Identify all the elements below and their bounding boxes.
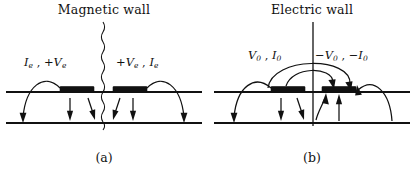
field-arrow-head [67, 111, 73, 121]
field-arrow-icon [286, 70, 333, 86]
field-arrow-icon [358, 85, 392, 121]
field-arrow-head [181, 113, 188, 123]
field-arrow-head [336, 94, 342, 104]
field-arrow-head [89, 109, 95, 120]
field-arrow-icon [147, 81, 184, 117]
wavy-vertical-line-icon [101, 22, 104, 130]
metal-patch-icon [60, 87, 94, 93]
field-arrow-head [231, 113, 238, 123]
field-arrow-head [298, 109, 304, 120]
field-arrow-head [113, 109, 119, 120]
metal-patch-icon [113, 87, 147, 93]
metal-patch-icon [271, 87, 305, 93]
diagram-drawing-layer [0, 0, 416, 175]
field-arrow-head [20, 113, 27, 123]
field-arrow-icon [23, 81, 60, 117]
field-arrow-head [322, 93, 329, 104]
field-arrow-icon [268, 63, 350, 88]
field-arrow-icon [234, 82, 271, 117]
figure-root: Magnetic wall (a) Ie , +Ve +Ve , Ie Elec… [0, 0, 416, 175]
field-arrow-head [278, 111, 284, 121]
field-arrow-head [130, 111, 136, 121]
